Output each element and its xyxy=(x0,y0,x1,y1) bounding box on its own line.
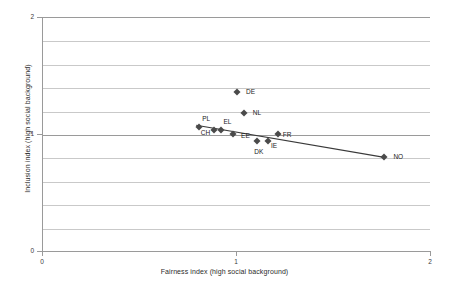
x-ticklabel-1: 1 xyxy=(228,259,244,266)
y-ticklabel-2: 2 xyxy=(20,14,34,21)
data-label-dk: DK xyxy=(254,149,263,156)
data-label-no: NO xyxy=(393,154,403,161)
data-label-fr: FR xyxy=(283,132,292,139)
gridline-0.4 xyxy=(43,205,430,206)
x-axis-title: Fairness index (high social background) xyxy=(0,268,449,275)
gridline-1.0 xyxy=(43,135,430,136)
y-tick-2 xyxy=(37,17,42,18)
data-label-nl: NL xyxy=(253,110,261,117)
data-label-ie: IE xyxy=(271,143,277,150)
data-label-ch: CH xyxy=(201,130,210,137)
y-axis-title: Inclusion index (high social background) xyxy=(24,39,31,219)
scatter-chart: 2 1 0 0 1 2 Fairness index (high social … xyxy=(0,0,449,291)
gridline-1.6 xyxy=(43,65,430,66)
x-ticklabel-0: 0 xyxy=(34,259,50,266)
x-ticklabel-2: 2 xyxy=(422,259,438,266)
x-tick-1 xyxy=(236,251,237,256)
x-tick-0 xyxy=(42,251,43,256)
gridline-1.2 xyxy=(43,112,430,113)
data-label-el: EL xyxy=(223,119,231,126)
y-ticklabel-0: 0 xyxy=(20,248,34,255)
data-label-de: DE xyxy=(246,89,255,96)
gridline-1.8 xyxy=(43,41,430,42)
gridline-0.6 xyxy=(43,182,430,183)
x-tick-2 xyxy=(430,251,431,256)
gridline-0.8 xyxy=(43,158,430,159)
gridline-0.2 xyxy=(43,229,430,230)
y-tick-1 xyxy=(37,134,42,135)
data-label-pl: PL xyxy=(202,116,210,123)
data-label-ee: EE xyxy=(241,133,250,140)
